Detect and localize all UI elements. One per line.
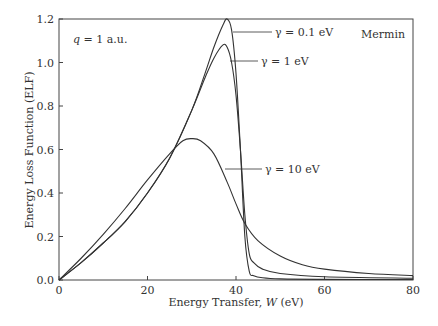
- y-axis-label: Energy Loss Function (ELF): [23, 71, 36, 228]
- y-tick-label: 0.0: [37, 274, 55, 287]
- x-tick-label: 60: [318, 284, 332, 297]
- annotations: q = 1 a.u. Mermin γ = 0.1 eV γ = 1 eV γ …: [23, 26, 405, 309]
- y-tick-label: 1.0: [37, 57, 55, 70]
- curves: [59, 19, 413, 280]
- curve-0: [59, 19, 413, 280]
- label-gamma-0.1: γ = 0.1 eV: [275, 26, 334, 39]
- plot-frame: [59, 19, 413, 280]
- model-annotation: Mermin: [361, 28, 405, 41]
- y-tick-label: 0.8: [37, 100, 55, 113]
- curve-2: [59, 139, 413, 280]
- y-tick-label: 0.4: [37, 187, 55, 200]
- y-tick-label: 0.6: [37, 144, 55, 157]
- x-tick-label: 20: [141, 284, 155, 297]
- y-tick-label: 1.2: [37, 13, 55, 26]
- label-gamma-10: γ = 10 eV: [265, 163, 321, 176]
- axes: 0204060800.00.20.40.60.81.01.2: [37, 13, 421, 297]
- x-tick-label: 80: [406, 284, 420, 297]
- elf-chart: 0204060800.00.20.40.60.81.01.2 q = 1 a.u…: [0, 0, 438, 326]
- x-axis-label: Energy Transfer, W (eV): [168, 296, 303, 309]
- label-gamma-1: γ = 1 eV: [261, 55, 310, 68]
- x-tick-label: 0: [56, 284, 63, 297]
- chart-figure: 0204060800.00.20.40.60.81.01.2 q = 1 a.u…: [0, 0, 438, 326]
- q-annotation: q = 1 a.u.: [73, 33, 127, 46]
- y-tick-label: 0.2: [37, 231, 55, 244]
